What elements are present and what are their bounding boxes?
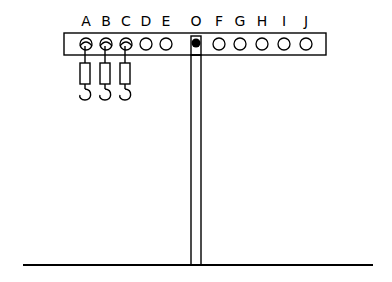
- hole-label-i: I: [282, 13, 286, 29]
- hole-j: [300, 38, 312, 50]
- hole-label-a: A: [81, 13, 91, 29]
- hole-d: [140, 38, 152, 50]
- hole-label-b: B: [101, 13, 111, 29]
- spring-scale-b: [100, 42, 112, 100]
- hole-label-h: H: [257, 13, 268, 29]
- support-pole: [191, 55, 201, 265]
- hole-label-f: F: [215, 13, 223, 29]
- hole-f: [213, 38, 225, 50]
- hole-label-j: J: [303, 13, 308, 29]
- hole-label-e: E: [162, 13, 171, 29]
- hole-label-g: G: [235, 13, 246, 29]
- hole-label-o: O: [190, 13, 201, 29]
- spring-scale-c: [120, 42, 132, 100]
- pivot-point: [192, 39, 201, 48]
- hole-h: [256, 38, 268, 50]
- hole-i: [278, 38, 290, 50]
- hole-e: [160, 38, 172, 50]
- lever-diagram: ABCDEOFGHIJ: [0, 0, 392, 282]
- hole-label-c: C: [121, 13, 131, 29]
- spring-scale-a: [80, 42, 92, 100]
- hole-g: [234, 38, 246, 50]
- hole-label-d: D: [141, 13, 152, 29]
